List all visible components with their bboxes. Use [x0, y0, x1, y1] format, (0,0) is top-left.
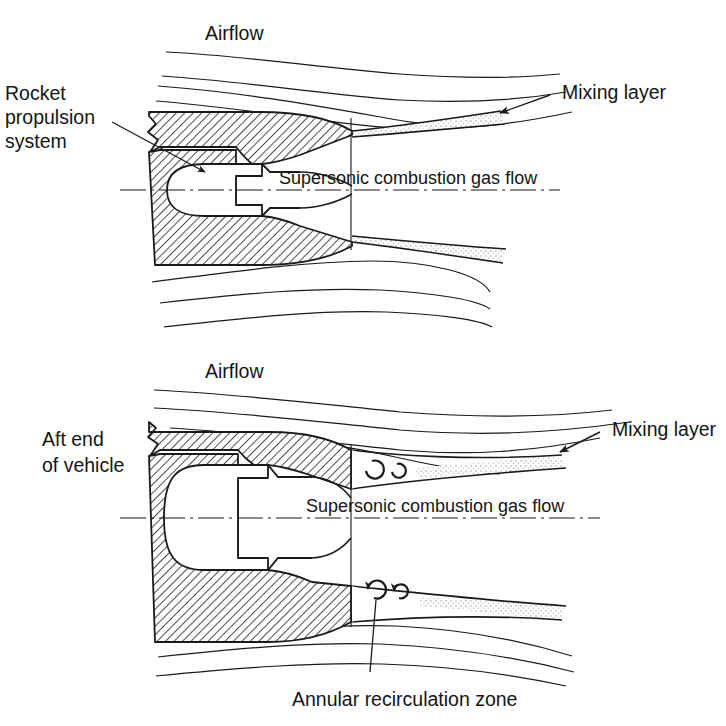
upper-panel: Airflow Rocket propulsion system Mixing …: [5, 22, 667, 327]
label-rocket-propulsion-line2: propulsion: [5, 106, 95, 128]
label-annular-recirculation-zone: Annular recirculation zone: [292, 688, 517, 710]
label-mixing-layer-lower: Mixing layer: [612, 418, 717, 440]
streamline: [156, 664, 566, 686]
streamline: [162, 76, 566, 102]
lower-panel: Airflow Aft end of vehicle Mixing layer …: [42, 360, 717, 710]
streamline: [166, 52, 560, 77]
annular-recirculation-zone-upper: [351, 450, 414, 489]
label-supersonic-flow-lower: Supersonic combustion gas flow: [306, 496, 565, 516]
label-supersonic-flow-upper: Supersonic combustion gas flow: [279, 168, 538, 188]
label-airflow-upper: Airflow: [205, 22, 264, 44]
figure-root: Airflow Rocket propulsion system Mixing …: [0, 0, 726, 726]
callout-leader-mixing-layer-lower-panel: [560, 432, 600, 452]
mixing-layer-wedge-lower: [352, 236, 505, 262]
label-rocket-propulsion-line3: system: [5, 130, 67, 152]
label-mixing-layer-upper: Mixing layer: [562, 81, 667, 103]
streamline: [160, 289, 490, 309]
label-aft-end-line2: of vehicle: [42, 454, 124, 476]
streamline: [158, 644, 574, 672]
mixing-layer-wedge-upper-lower-panel: [414, 456, 566, 478]
streamline: [164, 312, 492, 327]
label-airflow-lower: Airflow: [205, 360, 264, 382]
base-flow-schematic: Airflow Rocket propulsion system Mixing …: [0, 0, 726, 726]
upper-panel-airflow-streamlines-bottom: [152, 261, 492, 327]
recirculation-boundary: [351, 450, 414, 489]
label-rocket-propulsion-line1: Rocket: [5, 82, 66, 104]
label-aft-end-line1: Aft end: [42, 428, 104, 450]
